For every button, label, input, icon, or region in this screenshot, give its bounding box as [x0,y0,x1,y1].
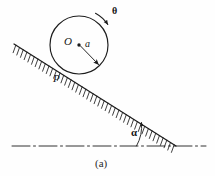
mechanics-figure: O a P θ α (a) [0,0,215,176]
hatch-mark [171,145,174,153]
hatch-mark [113,108,116,116]
hatch-mark [65,78,68,86]
hatch-mark [17,47,20,55]
incline-hatch-group [13,45,174,152]
hatch-mark [39,61,42,69]
hatch-mark [157,136,160,144]
hatch-mark [164,140,167,148]
figure-canvas [0,0,215,176]
hatch-mark [68,80,71,88]
label-contact-point-p: P [53,73,60,84]
incline-surface-line [14,44,176,146]
hatch-mark [13,45,16,53]
hatch-mark [32,57,35,65]
hatch-mark [149,131,152,139]
hatch-mark [83,89,86,97]
hatch-mark [105,103,108,111]
label-incline-angle-alpha: α [131,127,137,138]
hatch-mark [101,101,104,109]
hatch-mark [146,129,149,137]
hatch-mark [120,112,123,120]
hatch-mark [90,94,93,102]
hatch-mark [94,96,97,104]
hatch-mark [28,54,31,62]
hatch-mark [61,75,64,83]
hatch-mark [116,110,119,118]
hatch-mark [72,82,75,90]
hatch-mark [87,92,90,100]
hatch-mark [76,85,79,93]
hatch-mark [20,50,23,58]
hatch-mark [98,98,101,106]
hatch-mark [127,117,130,125]
hatch-mark [35,59,38,67]
label-center-o: O [64,36,72,47]
hatch-mark [79,87,82,95]
hatch-mark [124,115,127,123]
hatch-mark [153,133,156,141]
label-rotation-angle-theta: θ [112,6,117,16]
hatch-mark [138,124,141,132]
hatch-mark [160,138,163,146]
hatch-mark [24,52,27,60]
hatch-mark [109,105,112,113]
label-radius-a: a [85,39,90,49]
hatch-mark [142,126,145,134]
hatch-mark [46,66,49,74]
figure-caption: (a) [95,158,107,169]
hatch-mark [43,64,46,72]
alpha-arc-arrow [137,123,142,147]
